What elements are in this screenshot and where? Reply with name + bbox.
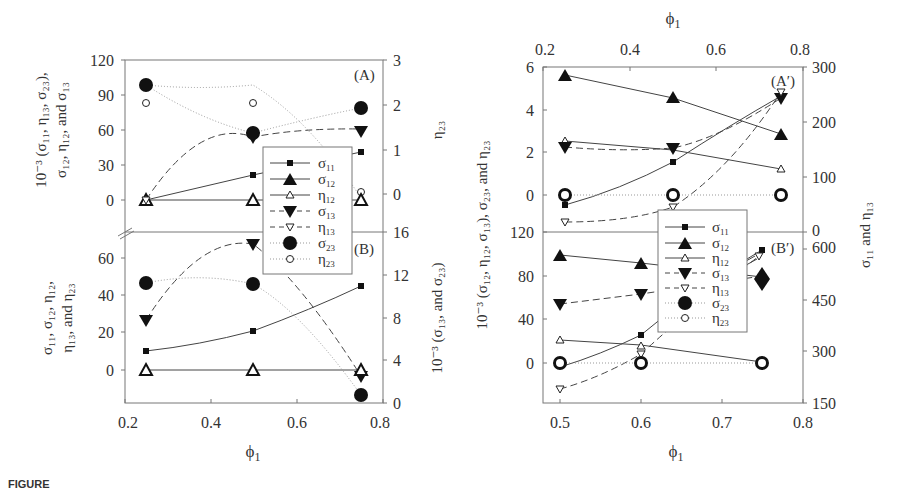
svg-text:0: 0 <box>812 222 820 239</box>
svg-text:80: 80 <box>518 268 534 285</box>
svg-text:0.6: 0.6 <box>287 414 307 431</box>
figure-caption: FIGURE <box>8 478 898 491</box>
right-legend: σ11 σ12 η12 σ13 η13 σ23 η23 <box>658 210 747 332</box>
caption-label: FIGURE <box>8 478 50 490</box>
svg-text:60: 60 <box>98 250 114 267</box>
svg-text:200: 200 <box>812 114 836 131</box>
svg-text:0.7: 0.7 <box>712 414 732 431</box>
left-a-right-ylabel: η₂₃ <box>429 121 445 139</box>
left-b-ylabel-line2: η₁₃, and η₂₃ <box>59 283 75 353</box>
svg-text:0.6: 0.6 <box>706 41 726 58</box>
right-right-ylabel: σ₁₁ and η₁₃ <box>857 202 873 268</box>
svg-text:0: 0 <box>526 355 534 372</box>
figure: 120 90 60 30 0 3 2 1 0 60 40 20 0 16 12 … <box>0 0 899 491</box>
left-legend: σ11 σ12 η12 σ13 η13 σ23 η23 <box>263 147 352 274</box>
svg-text:0: 0 <box>393 395 401 412</box>
left-b-yticks-right: 16 12 8 4 0 <box>383 224 409 412</box>
panel-label-a-prime: (A′) <box>771 73 795 90</box>
left-a-ylabel-line2: σ₁₂, η₁₂, and σ₁₃ <box>53 82 69 178</box>
left-b-yticks: 60 40 20 0 <box>98 250 125 379</box>
svg-text:0.8: 0.8 <box>793 414 813 431</box>
svg-text:60: 60 <box>98 122 114 139</box>
svg-text:0: 0 <box>526 187 534 204</box>
left-xticks: 0.2 0.4 0.6 0.8 <box>118 399 390 431</box>
svg-text:4: 4 <box>393 352 401 369</box>
svg-text:0: 0 <box>393 186 401 203</box>
left-x-axis-label: ϕ1 <box>246 442 261 464</box>
diamond-marker <box>754 267 770 291</box>
svg-text:300: 300 <box>812 59 836 76</box>
svg-text:0.2: 0.2 <box>535 41 555 58</box>
left-a-ylabel-line1: 10⁻³ (σ₁₁, η₁₃, σ₂₃), <box>33 72 50 187</box>
svg-text:150: 150 <box>812 395 836 412</box>
svg-text:0: 0 <box>106 192 114 209</box>
left-b-right-ylabel: 10⁻³ (σ₁₃, and σ₂₃) <box>429 262 446 373</box>
left-a-yticks: 120 90 60 30 0 <box>90 52 125 209</box>
right-b-yticks-right: 600 450 300 150 <box>803 239 836 412</box>
svg-text:0.5: 0.5 <box>550 414 570 431</box>
svg-text:0.8: 0.8 <box>370 414 390 431</box>
svg-text:0.8: 0.8 <box>790 41 810 58</box>
right-left-ylabel: 10⁻³ (σ₁₂, η₁₂, σ₁₃), σ₂₃, and η₂₃ <box>474 141 491 330</box>
right-a-yticks-right: 300 200 100 0 <box>803 59 836 239</box>
panel-label-b: (B) <box>354 241 374 258</box>
svg-text:120: 120 <box>90 52 114 69</box>
svg-text:450: 450 <box>812 292 836 309</box>
svg-text:8: 8 <box>393 310 401 327</box>
svg-text:300: 300 <box>812 343 836 360</box>
right-bottom-xticks: 0.5 0.6 0.7 0.8 <box>550 399 813 431</box>
svg-text:100: 100 <box>812 169 836 186</box>
svg-text:90: 90 <box>98 87 114 104</box>
right-figure: 0.2 0.4 0.6 0.8 ϕ1 6 4 2 0 300 200 100 0… <box>474 9 873 464</box>
svg-text:0.2: 0.2 <box>118 414 138 431</box>
svg-text:0: 0 <box>106 362 114 379</box>
right-b-yticks: 120 80 40 0 <box>510 224 547 372</box>
svg-text:3: 3 <box>393 52 401 69</box>
panel-label-a: (A) <box>354 67 375 84</box>
svg-text:0.4: 0.4 <box>620 41 640 58</box>
svg-text:40: 40 <box>518 311 534 328</box>
right-x-axis-label: ϕ1 <box>669 442 684 464</box>
left-b-ylabel-line1: σ₁₁, σ₁₂, η₁₂, <box>39 281 55 355</box>
svg-text:20: 20 <box>98 324 114 341</box>
svg-text:30: 30 <box>98 157 114 174</box>
svg-text:600: 600 <box>812 239 836 256</box>
svg-text:1: 1 <box>393 142 401 159</box>
svg-text:12: 12 <box>393 267 409 284</box>
right-top-x-axis-label: ϕ1 <box>666 9 681 31</box>
svg-text:6: 6 <box>526 59 534 76</box>
svg-text:0.6: 0.6 <box>631 414 651 431</box>
svg-text:2: 2 <box>393 97 401 114</box>
svg-text:4: 4 <box>526 102 534 119</box>
left-figure: 120 90 60 30 0 3 2 1 0 60 40 20 0 16 12 … <box>33 52 446 464</box>
svg-text:120: 120 <box>510 224 534 241</box>
right-a-series <box>558 69 788 226</box>
right-a-yticks: 6 4 2 0 <box>526 59 547 204</box>
svg-text:16: 16 <box>393 224 409 241</box>
left-a-yticks-right: 3 2 1 0 <box>383 52 401 203</box>
svg-text:0.4: 0.4 <box>201 414 221 431</box>
panel-label-b-prime: (B′) <box>771 240 794 257</box>
svg-text:40: 40 <box>98 287 114 304</box>
svg-text:2: 2 <box>526 144 534 161</box>
